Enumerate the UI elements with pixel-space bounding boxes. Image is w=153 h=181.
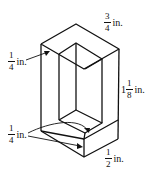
fraction: 1 2	[105, 148, 112, 169]
label-left-wall: 1 4 in.	[8, 51, 27, 72]
label-height: 1 1 8 in.	[121, 79, 145, 100]
fraction: 1 8	[126, 79, 133, 100]
fraction: 1 4	[8, 124, 15, 145]
arrowhead-icon	[77, 143, 83, 149]
label-front-width: 1 2 in.	[105, 148, 124, 169]
label-bottom-wall: 1 4 in.	[8, 124, 27, 145]
bottom-leader-2	[28, 136, 80, 146]
fraction: 3 4	[104, 12, 111, 33]
inner-floor	[59, 110, 102, 133]
bottom-leader-1	[28, 122, 88, 133]
label-top-width: 3 4 in.	[104, 12, 123, 33]
left-wall-leader	[26, 52, 48, 60]
fraction: 1 4	[8, 51, 15, 72]
right-edge	[118, 49, 119, 139]
inner-rim	[59, 43, 102, 69]
